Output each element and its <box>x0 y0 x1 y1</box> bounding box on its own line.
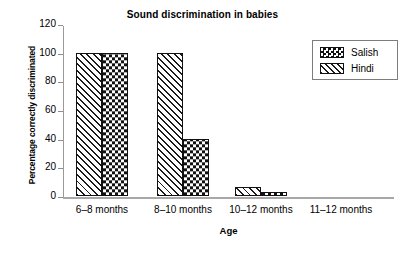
x-tick-label-2: 10–12 months <box>216 204 306 215</box>
y-tick-label: 120 <box>26 18 56 29</box>
y-tick-mark <box>58 140 63 141</box>
x-axis-title: Age <box>63 225 394 236</box>
x-tick-label-1: 8–10 months <box>138 204 228 215</box>
bar-group-0 <box>76 25 128 197</box>
y-tick-label: 60 <box>26 104 56 115</box>
y-tick-label: 40 <box>26 133 56 144</box>
y-axis-line <box>63 26 64 198</box>
bar-salish-2[interactable] <box>261 192 287 196</box>
chart-legend: Salish Hindi <box>312 40 398 80</box>
x-tick-label-0: 6–8 months <box>57 204 147 215</box>
chart-figure: Sound discrimination in babies Percentag… <box>0 0 405 254</box>
y-tick-mark <box>58 197 63 198</box>
legend-swatch-hindi-icon <box>320 63 344 74</box>
bar-salish-1[interactable] <box>183 139 209 196</box>
legend-label-hindi: Hindi <box>351 63 374 74</box>
y-tick-label: 0 <box>26 190 56 201</box>
bar-group-1 <box>157 25 209 197</box>
y-tick-label: 80 <box>26 75 56 86</box>
y-tick-label: 100 <box>26 47 56 58</box>
y-tick-label: 20 <box>26 161 56 172</box>
legend-item-salish[interactable]: Salish <box>320 46 378 58</box>
bar-salish-0[interactable] <box>102 53 128 196</box>
x-axis-line <box>63 197 394 199</box>
legend-label-salish: Salish <box>351 47 378 58</box>
y-tick-mark <box>58 25 63 26</box>
chart-title: Sound discrimination in babies <box>0 9 405 20</box>
bar-hindi-0[interactable] <box>76 53 102 196</box>
legend-swatch-salish-icon <box>320 47 344 58</box>
bar-group-2 <box>235 25 287 197</box>
y-tick-mark <box>58 54 63 55</box>
x-tick-label-3: 11–12 months <box>296 204 386 215</box>
y-tick-mark <box>58 111 63 112</box>
bar-hindi-2[interactable] <box>235 187 261 196</box>
y-tick-mark <box>58 168 63 169</box>
bar-hindi-1[interactable] <box>157 53 183 196</box>
legend-item-hindi[interactable]: Hindi <box>320 62 374 74</box>
y-tick-mark <box>58 82 63 83</box>
